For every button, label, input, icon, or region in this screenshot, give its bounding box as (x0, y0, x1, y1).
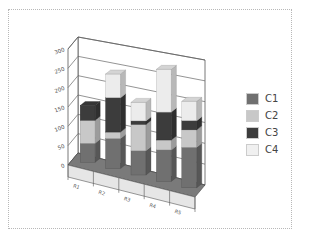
legend: C1 C2 C3 C4 (246, 90, 278, 158)
legend-item-c4: C4 (246, 141, 278, 158)
bar-segment-c4 (131, 102, 146, 120)
bar-side (95, 116, 100, 143)
bar-segment-c4 (182, 101, 197, 120)
bar-segment-c2 (106, 132, 121, 138)
bar-side (146, 147, 151, 175)
legend-label-c1: C1 (265, 93, 278, 104)
x-tick-label: R4 (149, 202, 157, 210)
legend-item-c1: C1 (246, 90, 278, 107)
bar-segment-c2 (182, 130, 197, 147)
bar-segment-c3 (106, 98, 121, 132)
y-tick-label: 200 (53, 85, 65, 94)
legend-swatch-c1 (246, 93, 259, 105)
bar-segment-c3 (156, 112, 171, 140)
y-tick-label: 50 (57, 143, 66, 151)
bar-segment-c1 (156, 150, 171, 182)
bar-segment-c1 (131, 151, 146, 175)
legend-swatch-c2 (246, 110, 259, 122)
bar-side (171, 146, 176, 182)
bar-segment-c2 (131, 124, 146, 150)
y-tick-label: 0 (60, 162, 66, 169)
bar-segment-c1 (106, 139, 121, 169)
bar-segment-c1 (80, 143, 95, 162)
y-tick-label: 250 (53, 65, 65, 74)
bar-segment-c1 (182, 147, 197, 187)
bar-side (121, 94, 126, 132)
x-tick-label: R2 (98, 189, 106, 197)
y-tick-label: 150 (53, 104, 65, 113)
y-tick-label: 300 (53, 46, 65, 55)
bar-segment-c2 (156, 140, 171, 150)
legend-item-c2: C2 (246, 107, 278, 124)
bar-segment-c4 (106, 74, 121, 98)
x-tick-label: R3 (123, 195, 131, 203)
legend-label-c3: C3 (265, 127, 278, 138)
bar-segment-c4 (156, 69, 171, 112)
bar-side (171, 65, 176, 112)
bar-segment-c3 (182, 121, 197, 130)
bar-segment-c3 (131, 121, 146, 125)
bar-segment-c3 (80, 106, 95, 121)
x-tick-label: R5 (174, 208, 182, 216)
legend-swatch-c3 (246, 127, 259, 139)
legend-label-c2: C2 (265, 110, 278, 121)
bar-side (121, 70, 126, 98)
bar-side (121, 135, 126, 169)
y-tick-label: 100 (53, 123, 65, 132)
bar-side (146, 120, 151, 150)
legend-label-c4: C4 (265, 144, 278, 155)
legend-item-c3: C3 (246, 124, 278, 141)
bar-side (171, 108, 176, 140)
bar-side (197, 143, 202, 187)
legend-swatch-c4 (246, 144, 259, 156)
bar-segment-c2 (80, 120, 95, 143)
x-tick-label: R1 (72, 182, 80, 190)
